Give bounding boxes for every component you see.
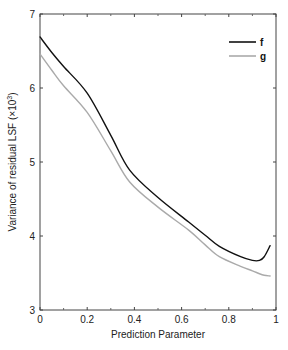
x-tick-label: 0.6 bbox=[175, 314, 189, 325]
y-tick-label: 4 bbox=[29, 231, 35, 242]
x-tick-label: 0.2 bbox=[80, 314, 94, 325]
series-line-g bbox=[40, 54, 270, 276]
x-tick-label: 0.4 bbox=[127, 314, 141, 325]
legend: fg bbox=[229, 37, 266, 62]
x-axis-label: Prediction Parameter bbox=[111, 329, 206, 340]
y-tick-label: 3 bbox=[29, 305, 35, 316]
chart-canvas: 00.20.40.60.81 34567 fg Prediction Param… bbox=[0, 0, 288, 350]
y-axis-label: Variance of residual LSF (×103) bbox=[6, 92, 18, 231]
line-chart: 00.20.40.60.81 34567 fg Prediction Param… bbox=[0, 0, 288, 350]
x-tick-label: 0 bbox=[37, 314, 43, 325]
series-layer bbox=[40, 37, 270, 276]
x-tick-label: 1 bbox=[273, 314, 279, 325]
y-axis-label-close: ) bbox=[7, 92, 18, 95]
x-axis: 00.20.40.60.81 bbox=[37, 14, 279, 325]
series-line-f bbox=[40, 37, 270, 261]
legend-label-f: f bbox=[260, 37, 264, 48]
legend-label-g: g bbox=[260, 51, 266, 62]
y-tick-label: 5 bbox=[29, 157, 35, 168]
y-axis-label-main: Variance of residual LSF (×10 bbox=[7, 99, 18, 231]
y-axis: 34567 bbox=[29, 9, 276, 316]
y-tick-label: 7 bbox=[29, 9, 35, 20]
y-tick-label: 6 bbox=[29, 83, 35, 94]
x-tick-label: 0.8 bbox=[222, 314, 236, 325]
